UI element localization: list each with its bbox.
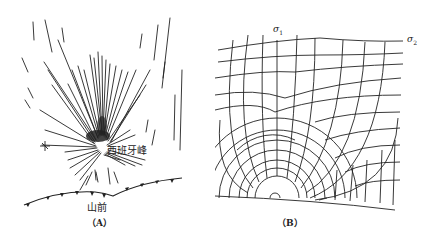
peak-label: 西班牙峰 (107, 142, 147, 157)
caption-a: （A） (87, 216, 112, 229)
mountain-front-label: 山前 (87, 199, 107, 214)
panel-b-stress-trajectories: σ1 σ2 （B） (215, 0, 430, 247)
radial-dike-lines (0, 0, 215, 247)
panel-a-dike-map: 西班牙峰 山前 （A） (0, 0, 215, 247)
caption-b: （B） (277, 216, 303, 229)
sigma1-label: σ1 (273, 24, 283, 36)
sigma2-label: σ2 (407, 34, 417, 46)
stress-trajectory-grid (215, 0, 430, 247)
